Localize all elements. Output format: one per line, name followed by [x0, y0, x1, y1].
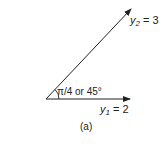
- vector-y2-label: y2 = 3: [130, 15, 159, 28]
- y2-value: = 3: [140, 14, 159, 26]
- vector-y1-label: y1 = 2: [100, 104, 129, 117]
- angle-label: π/4 or 45°: [57, 87, 102, 97]
- y1-value: = 2: [110, 103, 129, 115]
- caption: (a): [80, 122, 92, 132]
